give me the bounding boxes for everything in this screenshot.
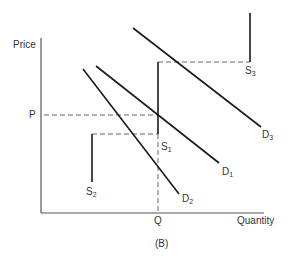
s2-label-sub: 2 bbox=[93, 191, 97, 198]
quantity-marker-label: Q bbox=[154, 216, 162, 226]
s3-label: S3 bbox=[245, 66, 256, 77]
s1-label-base: S bbox=[161, 141, 168, 152]
s1-label: S1 bbox=[161, 142, 172, 153]
d3-label-sub: 3 bbox=[269, 134, 273, 141]
y-axis-label: Price bbox=[13, 40, 36, 50]
d3-label: D3 bbox=[262, 130, 273, 141]
d1-label: D1 bbox=[222, 167, 233, 178]
s3-label-base: S bbox=[245, 65, 252, 76]
s2-label-base: S bbox=[86, 186, 93, 197]
x-axis-label: Quantity bbox=[237, 216, 274, 226]
price-marker-label: P bbox=[29, 110, 36, 120]
s1-label-sub: 1 bbox=[168, 146, 172, 153]
d2-label: D2 bbox=[182, 194, 193, 205]
s2-label: S2 bbox=[86, 187, 97, 198]
figure-caption: (B) bbox=[155, 239, 168, 249]
demand-curve-d3 bbox=[133, 28, 261, 127]
s3-label-sub: 3 bbox=[252, 70, 256, 77]
d1-label-sub: 1 bbox=[229, 171, 233, 178]
demand-curve-d2 bbox=[83, 69, 179, 194]
d2-label-sub: 2 bbox=[189, 198, 193, 205]
